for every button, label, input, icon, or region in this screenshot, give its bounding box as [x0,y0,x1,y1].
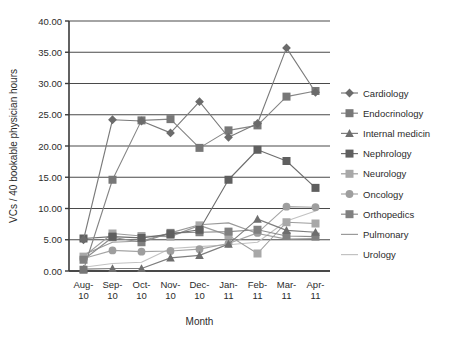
data-point-square [346,150,354,158]
data-point-square [225,176,233,184]
data-point-diamond [345,89,354,98]
data-point-square [283,218,291,226]
legend-item-cardiology[interactable]: Cardiology [341,88,409,99]
y-axis-title: VCs / 40 bookable physician hours [8,69,19,223]
series-cardiology [79,43,320,244]
legend-label: Cardiology [363,88,409,99]
x-tick-label: Nov- [160,279,180,290]
data-point-square [196,226,204,234]
x-tick-label: Feb- [248,279,268,290]
data-point-square [80,266,88,274]
data-point-square [254,226,262,234]
chart-container: 0.005.0010.0015.0020.0025.0030.0035.0040… [0,0,461,340]
data-point-square [167,230,175,238]
legend-label: Neurology [363,168,407,179]
legend-item-urology[interactable]: Urology [341,249,396,260]
x-tick-label: 11 [253,290,263,301]
legend-label: Nephrology [363,148,412,159]
data-point-circle [312,203,320,211]
y-tick-label: 5.00 [44,234,63,245]
data-point-square [346,170,354,178]
data-point-square [225,228,233,236]
legend-label: Urology [363,249,396,260]
x-tick-label: Jan- [219,279,237,290]
data-point-diamond [108,115,117,124]
legend-item-pulmonary[interactable]: Pulmonary [341,229,409,240]
data-point-triangle [195,251,204,259]
legend-label: Endocrinology [363,108,423,119]
series-line [84,48,316,240]
y-tick-label: 10.00 [38,203,62,214]
data-point-square [138,234,146,242]
data-point-square [283,157,291,165]
x-tick-label: Oct- [133,279,151,290]
data-point-square [254,250,262,258]
legend-label: Internal medicin [363,128,430,139]
data-point-square [254,146,262,154]
data-point-square [109,233,117,241]
data-point-square [312,220,320,228]
data-point-square [196,144,204,152]
x-tick-label: 10 [107,290,118,301]
data-point-square [312,184,320,192]
x-tick-label: 11 [224,290,234,301]
data-point-circle [346,190,354,198]
data-point-square [167,115,175,123]
x-tick-label: Dec- [189,279,209,290]
line-chart: 0.005.0010.0015.0020.0025.0030.0035.0040… [0,0,461,340]
x-tick-label: 11 [282,290,292,301]
x-tick-label: 10 [165,290,176,301]
legend-item-orthopedics[interactable]: Orthopedics [341,209,414,220]
legend-label: Orthopedics [363,209,414,220]
legend: CardiologyEndocrinologyInternal medicinN… [341,88,430,261]
x-tick-label: Sep- [102,279,122,290]
x-tick-label: 10 [78,290,89,301]
x-tick-label: Mar- [277,279,297,290]
y-tick-label: 20.00 [38,141,62,152]
y-tick-label: 15.00 [38,172,62,183]
legend-item-internal-medicin[interactable]: Internal medicin [341,128,430,139]
legend-item-endocrinology[interactable]: Endocrinology [341,108,423,119]
y-tick-label: 25.00 [38,109,62,120]
y-tick-label: 35.00 [38,47,62,58]
data-point-circle [283,203,291,211]
data-point-square [346,210,354,218]
data-point-square [346,109,354,117]
x-axis-title: Month [186,316,214,327]
x-tick-label: 11 [311,290,321,301]
y-tick-label: 40.00 [38,16,62,27]
data-point-square [283,93,291,101]
legend-item-nephrology[interactable]: Nephrology [341,148,412,159]
series-line [84,91,316,270]
data-point-circle [138,248,146,256]
x-tick-label: Apr- [307,279,325,290]
data-point-triangle [282,226,291,234]
y-tick-label: 30.00 [38,78,62,89]
legend-label: Oncology [363,189,403,200]
data-point-circle [109,246,117,254]
x-tick-label: 10 [136,290,147,301]
data-point-diamond [282,43,291,52]
legend-item-oncology[interactable]: Oncology [341,189,403,200]
data-point-triangle [253,215,262,223]
legend-label: Pulmonary [363,229,409,240]
x-tick-label: 10 [194,290,205,301]
data-point-square [109,176,117,184]
x-tick-label: Aug- [73,279,93,290]
series-nephrology [80,146,320,243]
y-tick-label: 0.00 [44,266,63,277]
legend-item-neurology[interactable]: Neurology [341,168,407,179]
